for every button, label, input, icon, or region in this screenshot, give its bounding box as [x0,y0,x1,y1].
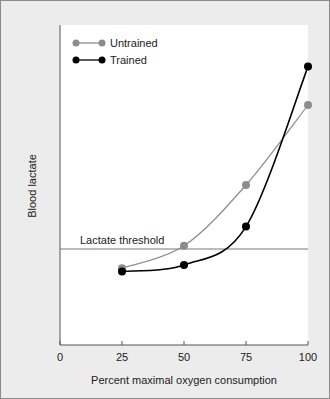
data-point [242,181,250,189]
data-point [118,267,126,275]
data-point [304,63,312,71]
threshold-label: Lactate threshold [80,234,164,246]
x-axis-label: Percent maximal oxygen consumption [91,374,277,386]
plot-area [60,25,308,345]
legend-label: Untrained [110,37,158,49]
data-point [242,223,250,231]
x-tick-label: 100 [299,351,317,363]
data-point [304,101,312,109]
chart: 0255075100 Lactate threshold Percent max… [0,0,330,399]
data-point [180,261,188,269]
data-point [180,242,188,250]
x-tick-label: 50 [178,351,190,363]
y-axis-label: Blood lactate [26,154,38,218]
x-tick-label: 25 [116,351,128,363]
x-tick-label: 75 [240,351,252,363]
x-tick-label: 0 [57,351,63,363]
legend-label: Trained [110,54,147,66]
